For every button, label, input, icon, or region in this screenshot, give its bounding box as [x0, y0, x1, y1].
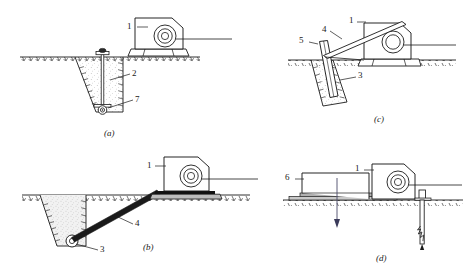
panel-letter-c: (c)	[374, 114, 384, 124]
callout-b-1: 1	[147, 161, 152, 170]
callout-c-3: 3	[358, 71, 363, 80]
callout-c-5: 5	[299, 36, 304, 45]
callout-a-7: 7	[135, 95, 140, 104]
diagram-svg	[0, 0, 469, 280]
panel-c	[288, 22, 456, 107]
callout-c-1: 1	[349, 16, 354, 25]
callout-c-4: 4	[322, 25, 327, 34]
panel-b	[22, 157, 258, 250]
panel-a-trench	[75, 57, 123, 112]
callout-a-2: 2	[132, 69, 137, 78]
panel-letter-a: (a)	[104, 128, 115, 138]
callout-a-1: 1	[127, 22, 132, 31]
panel-letter-b: (b)	[143, 242, 154, 252]
panel-d	[283, 164, 463, 250]
figure-canvas: 1 2 7 (a) 1 4 3 (b) 1 4 5 3 (c) 1 6 (d)	[0, 0, 469, 280]
callout-d-6: 6	[285, 173, 290, 182]
callout-b-4: 4	[135, 219, 140, 228]
panel-a-machine	[128, 18, 232, 56]
panel-b-machine	[150, 157, 258, 199]
panel-d-machine	[372, 164, 462, 199]
callout-d-1: 1	[355, 164, 360, 173]
callout-b-3: 3	[100, 245, 105, 254]
panel-d-stake	[415, 190, 431, 250]
panel-b-leaders	[76, 166, 166, 250]
panel-letter-d: (d)	[376, 253, 387, 263]
panel-d-ground	[283, 200, 463, 206]
panel-a	[20, 18, 232, 114]
